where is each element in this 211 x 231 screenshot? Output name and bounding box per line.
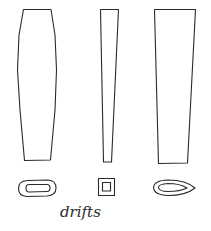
teardrop-cross-section xyxy=(154,180,196,196)
oval-cross-section xyxy=(19,180,57,197)
teardrop-drift xyxy=(155,10,196,164)
square-cross-section-outer xyxy=(99,179,115,196)
oval-cross-section-inner xyxy=(26,185,50,193)
square-cross-section-inner xyxy=(103,183,111,192)
oval-drift xyxy=(18,10,57,161)
square-drift-profile xyxy=(101,10,119,163)
teardrop-cross-section-outer xyxy=(154,180,196,196)
drifts-sketch: drifts xyxy=(0,0,211,231)
square-drift xyxy=(101,10,119,163)
square-cross-section xyxy=(99,179,115,196)
caption-label: drifts xyxy=(60,203,101,221)
oval-drift-profile xyxy=(18,10,57,161)
teardrop-drift-profile xyxy=(155,10,196,164)
teardrop-cross-section-inner xyxy=(159,184,188,192)
